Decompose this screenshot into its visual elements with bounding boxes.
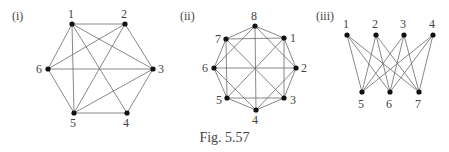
vertex-label: 1: [290, 31, 296, 45]
edge-3-4: [127, 69, 153, 113]
vertex-label: 3: [158, 62, 164, 76]
edge-4-5: [227, 98, 256, 110]
vertex-5: [224, 95, 229, 100]
vertex-label: 6: [386, 97, 392, 111]
vertex-label: 3: [290, 93, 296, 107]
vertex-label: 5: [70, 116, 76, 130]
vertex-label: 1: [68, 7, 74, 21]
vertex-label: 6: [202, 61, 208, 75]
edge-5-6: [48, 69, 74, 113]
vertex-5: [71, 110, 76, 115]
vertex-2: [293, 65, 298, 70]
vertex-1: [344, 32, 349, 37]
edge-7-8: [226, 26, 255, 39]
edge-3-5: [74, 69, 153, 113]
vertex-8: [252, 23, 257, 28]
graph-i: 123456(i): [12, 7, 164, 130]
graph-iii: 1234567(iii): [316, 9, 436, 111]
edge-4-6: [390, 35, 433, 92]
graph-label: (ii): [180, 9, 195, 23]
graph-label: (iii): [316, 9, 334, 23]
edge-2-5: [362, 35, 376, 92]
vertex-label: 7: [415, 97, 421, 111]
vertex-label: 2: [372, 17, 378, 31]
vertex-2: [373, 32, 378, 37]
vertex-3: [401, 32, 406, 37]
vertex-label: 4: [252, 113, 258, 127]
vertex-3: [281, 95, 286, 100]
vertex-3: [150, 66, 155, 71]
vertex-label: 6: [36, 62, 42, 76]
vertex-6: [387, 89, 392, 94]
figure-caption: Fig. 5.57: [0, 130, 449, 146]
vertex-label: 1: [343, 17, 349, 31]
vertex-7: [416, 89, 421, 94]
vertex-5: [359, 89, 364, 94]
edge-2-5: [74, 24, 125, 113]
edge-4-7: [419, 35, 433, 92]
vertex-label: 4: [123, 116, 129, 130]
vertex-7: [223, 36, 228, 41]
graph-label: (i): [12, 9, 23, 23]
vertex-label: 5: [216, 93, 222, 107]
vertex-2: [122, 21, 127, 26]
vertex-4: [253, 107, 258, 112]
vertex-1: [281, 35, 286, 40]
edge-3-4: [256, 98, 284, 110]
edge-5-7: [226, 39, 227, 98]
edge-2-3: [125, 24, 153, 69]
vertex-label: 2: [301, 61, 307, 75]
vertex-label: 7: [215, 32, 221, 46]
vertex-4: [124, 110, 129, 115]
edge-1-5: [347, 35, 362, 92]
vertex-label: 3: [400, 17, 406, 31]
vertex-label: 4: [429, 17, 435, 31]
vertex-1: [69, 21, 74, 26]
vertex-label: 5: [358, 97, 364, 111]
edge-1-5: [72, 24, 74, 113]
vertex-label: 2: [121, 7, 127, 21]
vertex-6: [45, 66, 50, 71]
vertex-4: [430, 32, 435, 37]
graph-ii: 81234567(ii): [180, 9, 307, 127]
vertex-label: 8: [251, 9, 257, 23]
vertex-6: [211, 65, 216, 70]
edge-8-1: [255, 26, 284, 38]
